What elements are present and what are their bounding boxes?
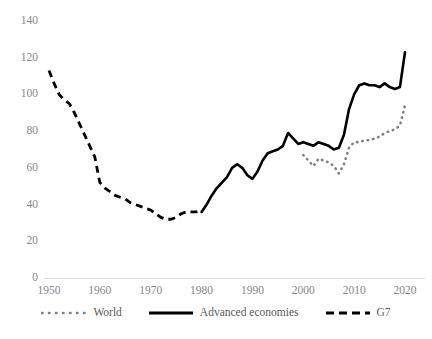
y-tick-100: 100	[8, 88, 38, 100]
x-tick-1960: 1960	[78, 285, 122, 297]
y-tick-40: 40	[8, 199, 38, 211]
x-tick-1990: 1990	[230, 285, 274, 297]
x-tick-2000: 2000	[281, 285, 325, 297]
series-line-advanced-economies	[202, 52, 405, 212]
chart-legend: World Advanced economies G7	[0, 307, 432, 319]
series-line-world	[303, 105, 405, 173]
dotted-line-swatch	[41, 308, 87, 318]
x-tick-2020: 2020	[383, 285, 427, 297]
x-tick-1950: 1950	[27, 285, 71, 297]
y-tick-120: 120	[8, 52, 38, 64]
y-tick-20: 20	[8, 235, 38, 247]
legend-item-g7[interactable]: G7	[325, 307, 391, 319]
x-tick-2010: 2010	[332, 285, 376, 297]
legend-label-advanced-economies: Advanced economies	[200, 307, 299, 319]
legend-item-advanced-economies[interactable]: Advanced economies	[148, 307, 299, 319]
y-tick-140: 140	[8, 15, 38, 27]
x-tick-1980: 1980	[180, 285, 224, 297]
solid-line-swatch	[148, 308, 194, 318]
legend-label-g7: G7	[377, 307, 391, 319]
y-tick-60: 60	[8, 162, 38, 174]
y-tick-0: 0	[8, 272, 38, 284]
dashed-line-swatch	[325, 308, 371, 318]
x-tick-1970: 1970	[129, 285, 173, 297]
y-tick-80: 80	[8, 125, 38, 137]
legend-label-world: World	[93, 307, 121, 319]
series-line-g7	[49, 71, 202, 220]
line-chart: 020406080100120140 195019601970198019902…	[0, 0, 432, 339]
legend-item-world[interactable]: World	[41, 307, 121, 319]
